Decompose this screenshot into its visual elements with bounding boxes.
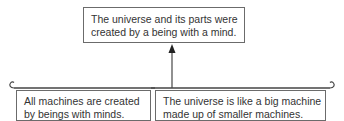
conclusion-line-2: created by a being with a mind. [91, 26, 244, 39]
premise-box-universe: The universe is like a big machine made … [155, 90, 326, 121]
premise-2-line-1: The universe is like a big machine [163, 95, 325, 108]
premise-1-line-2: by beings with minds. [24, 108, 150, 121]
bracket-right-curl [330, 82, 334, 88]
conclusion-box: The universe and its parts were created … [83, 7, 245, 43]
premise-1-line-1: All machines are created [24, 95, 150, 108]
bracket-left-curl [10, 82, 14, 88]
premise-2-line-2: made up of smaller machines. [163, 108, 325, 121]
premise-box-machines: All machines are created by beings with … [16, 90, 151, 121]
conclusion-line-1: The universe and its parts were [91, 13, 244, 26]
arrowhead-up-icon [169, 44, 176, 53]
